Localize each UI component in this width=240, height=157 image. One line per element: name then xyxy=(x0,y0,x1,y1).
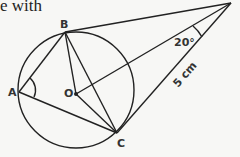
radius-oc xyxy=(76,94,117,133)
angle-label: 20° xyxy=(174,36,195,49)
geometry-figure: B A O C 20° 5 cm xyxy=(0,0,240,157)
length-label: 5 cm xyxy=(170,59,199,90)
label-a: A xyxy=(8,86,17,99)
label-b: B xyxy=(60,18,68,31)
angle-arc-a xyxy=(30,78,36,97)
tangent-pc xyxy=(117,3,231,133)
label-o: O xyxy=(64,87,73,100)
chord-bc xyxy=(65,32,117,133)
center-dot xyxy=(74,92,78,96)
label-c: C xyxy=(117,137,125,150)
